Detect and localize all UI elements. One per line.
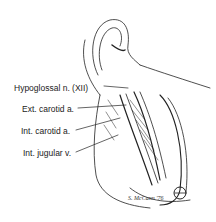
anatomical-illustration: S. McCann '76 Hypoglossal n. (XII) Ext. … — [0, 0, 216, 222]
label-internal-carotid-artery: Int. carotid a. — [21, 126, 70, 136]
label-external-carotid-artery: Ext. carotid a. — [22, 104, 74, 114]
artist-signature: S. McCann '76 — [128, 195, 163, 201]
label-internal-jugular-vein: Int. jugular v. — [23, 148, 71, 158]
label-hypoglossal-nerve: Hypoglossal n. (XII) — [14, 83, 88, 93]
